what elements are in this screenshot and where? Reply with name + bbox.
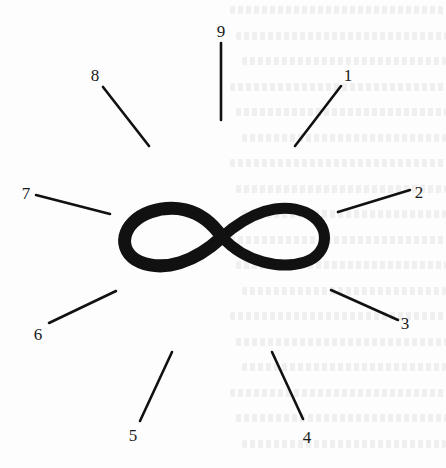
ray-line-5 (140, 352, 172, 421)
scanned-page: 123456789 (0, 0, 446, 468)
ray-label-4: 4 (303, 428, 312, 447)
ray-label-6: 6 (34, 325, 43, 344)
ray-line-1 (295, 86, 341, 146)
ray-line-2 (338, 190, 410, 212)
ray-line-6 (49, 291, 116, 323)
ray-line-4 (272, 352, 303, 419)
ray-label-9: 9 (217, 22, 226, 41)
ray-label-8: 8 (91, 66, 100, 85)
ray-line-3 (331, 290, 398, 320)
ray-label-3: 3 (401, 314, 410, 333)
ray-label-5: 5 (129, 426, 138, 445)
ray-line-8 (103, 87, 149, 146)
ray-label-1: 1 (344, 66, 353, 85)
ray-label-2: 2 (415, 183, 424, 202)
ray-line-7 (36, 195, 110, 214)
infinity-ray-diagram: 123456789 (0, 0, 446, 468)
infinity-symbol (125, 208, 325, 266)
ray-label-7: 7 (22, 184, 31, 203)
